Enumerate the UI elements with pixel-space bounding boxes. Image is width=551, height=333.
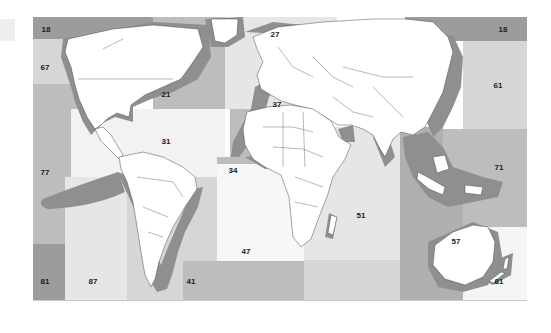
area-label-67: 67 <box>41 63 50 72</box>
area-label-61: 61 <box>494 81 503 90</box>
area-81-west <box>33 244 65 300</box>
area-label-27: 27 <box>271 30 280 39</box>
area-label-87: 87 <box>89 277 98 286</box>
area-label-41: 41 <box>187 277 196 286</box>
area-48 <box>183 261 304 300</box>
map-regions-svg <box>33 17 527 300</box>
area-label-51: 51 <box>357 211 366 220</box>
area-label-77: 77 <box>41 168 50 177</box>
area-label-37: 37 <box>273 100 282 109</box>
side-panel-box <box>0 19 15 41</box>
area-58 <box>304 260 400 300</box>
area-label-47: 47 <box>242 247 251 256</box>
area-label-71: 71 <box>495 163 504 172</box>
area-label-81-west: 81 <box>41 277 50 286</box>
area-label-21: 21 <box>162 90 171 99</box>
area-label-31: 31 <box>162 137 171 146</box>
area-label-57: 57 <box>452 237 461 246</box>
area-label-34: 34 <box>229 166 238 175</box>
fishing-areas-map: 18 18 67 21 27 37 61 31 34 77 71 51 57 4… <box>33 17 527 301</box>
area-label-81-east: 81 <box>495 277 504 286</box>
area-label-18-east: 18 <box>499 25 508 34</box>
area-label-18-west: 18 <box>42 25 51 34</box>
